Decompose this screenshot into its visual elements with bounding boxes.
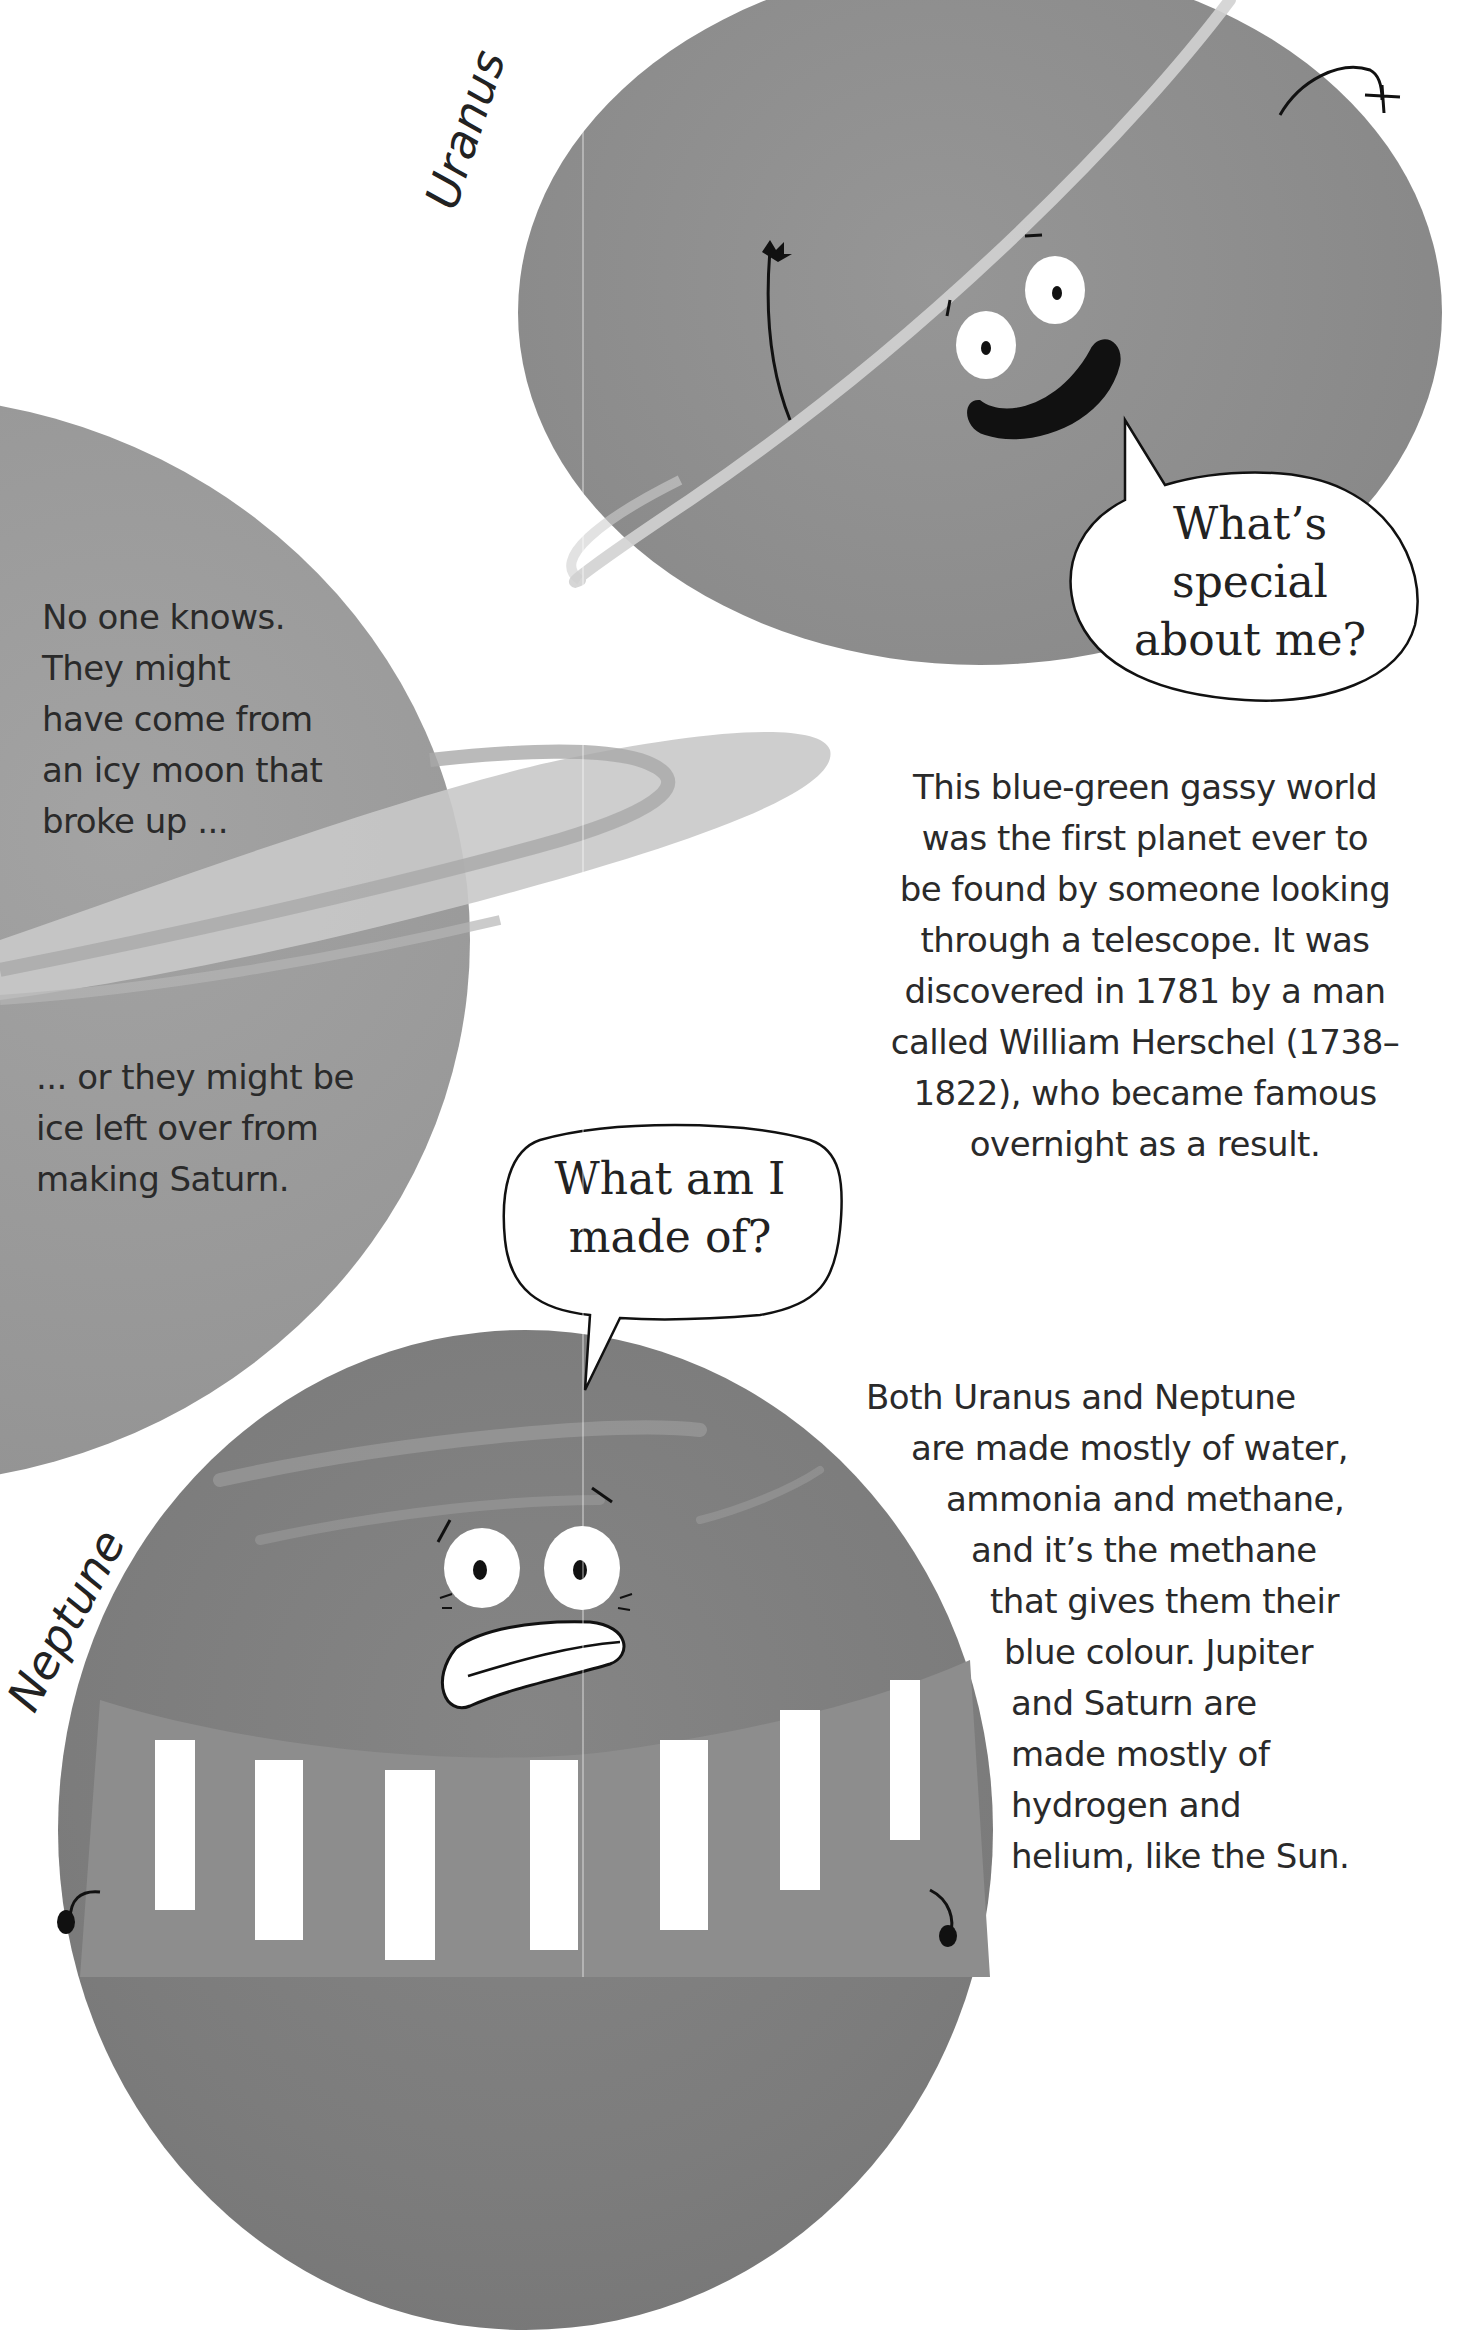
bubble-line: What’s: [1100, 495, 1400, 553]
text-line: ammonia and methane,: [866, 1474, 1426, 1525]
text-line: have come from: [42, 694, 462, 745]
text-line: ... or they might be: [36, 1052, 456, 1103]
text-line: discovered in 1781 by a man: [850, 966, 1440, 1017]
text-line: broke up ...: [42, 796, 462, 847]
neptune-face: [420, 1480, 700, 1740]
saturn-ring-origin-text-1: No one knows. They might have come from …: [42, 592, 462, 847]
text-line: Both Uranus and Neptune: [866, 1372, 1426, 1423]
text-line: are made mostly of water,: [866, 1423, 1426, 1474]
neptune-hand-left: [40, 1880, 110, 1940]
text-line: was the first planet ever to: [850, 813, 1440, 864]
uranus-bubble-text: What’s special about me?: [1100, 495, 1400, 669]
composition-fact-text: Both Uranus and Neptune are made mostly …: [866, 1372, 1426, 1882]
page-fold: [582, 0, 584, 1977]
uranus-fact-text: This blue-green gassy world was the firs…: [850, 762, 1440, 1170]
text-line: ice left over from: [36, 1103, 456, 1154]
text-line: 1822), who became famous: [850, 1068, 1440, 1119]
text-line: through a telescope. It was: [850, 915, 1440, 966]
text-line: overnight as a result.: [850, 1119, 1440, 1170]
text-line: blue colour. Jupiter: [866, 1627, 1426, 1678]
text-line: called William Herschel (1738–: [850, 1017, 1440, 1068]
saturn-ring-origin-text-2: ... or they might be ice left over from …: [36, 1052, 456, 1205]
text-line: that gives them their: [866, 1576, 1426, 1627]
text-line: No one knows.: [42, 592, 462, 643]
text-line: This blue-green gassy world: [850, 762, 1440, 813]
text-line: an icy moon that: [42, 745, 462, 796]
text-line: hydrogen and: [866, 1780, 1426, 1831]
uranus-arm-right: [1270, 40, 1410, 140]
bubble-line: about me?: [1100, 611, 1400, 669]
bubble-line: What am I: [520, 1150, 820, 1208]
bubble-line: made of?: [520, 1208, 820, 1266]
text-line: They might: [42, 643, 462, 694]
text-line: and Saturn are: [866, 1678, 1426, 1729]
bubble-line: special: [1100, 553, 1400, 611]
neptune-hand-right: [920, 1880, 980, 1950]
uranus-label: Uranus: [414, 44, 516, 216]
text-line: made mostly of: [866, 1729, 1426, 1780]
text-line: making Saturn.: [36, 1154, 456, 1205]
text-line: be found by someone looking: [850, 864, 1440, 915]
text-line: helium, like the Sun.: [866, 1831, 1426, 1882]
text-line: and it’s the methane: [866, 1525, 1426, 1576]
neptune-bubble-text: What am I made of?: [520, 1150, 820, 1266]
